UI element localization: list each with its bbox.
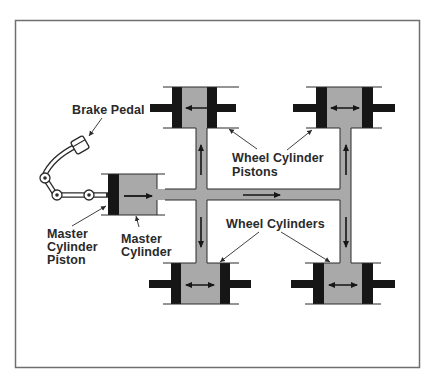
wheel-cylinder-piston [172,87,182,128]
label-master-cylinder: Master Cylinder [121,233,172,259]
wheel-cylinder-piston [171,263,181,304]
master-cylinder [101,174,165,215]
wheel-cylinder-piston [362,263,373,304]
label-brake-pedal: Brake Pedal [72,104,145,117]
wheel-cylinder-piston [316,87,327,128]
wheel-cylinder-piston [220,263,230,304]
brake-system-diagram [0,0,432,383]
label-wheel-cylinder-pistons: Wheel Cylinder Pistons [232,152,324,179]
wheel-cylinder-piston [313,263,324,304]
label-line: Cylinder [121,246,172,259]
label-wheel-cylinders: Wheel Cylinders [226,218,325,231]
master-cylinder-piston [108,174,119,215]
label-line: Pistons [232,166,324,179]
wheel-cylinder-piston [362,87,373,128]
label-master-cylinder-piston: Master Cylinder Piston [47,228,98,267]
label-line: Piston [47,254,98,267]
label-line: Wheel Cylinder [232,152,324,165]
